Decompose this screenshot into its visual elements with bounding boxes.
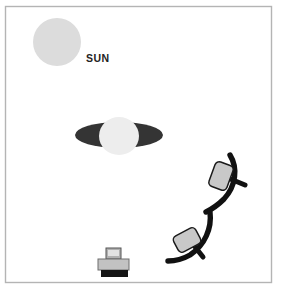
sun-icon <box>33 18 81 66</box>
lander-mast-window <box>108 250 119 256</box>
lander-body <box>98 259 129 270</box>
planet-body <box>99 117 139 155</box>
sun-label: SUN <box>86 52 109 64</box>
lander-base <box>101 270 128 277</box>
diagram-canvas: SUN <box>0 0 282 290</box>
solar-system-diagram: SUN <box>0 0 282 290</box>
